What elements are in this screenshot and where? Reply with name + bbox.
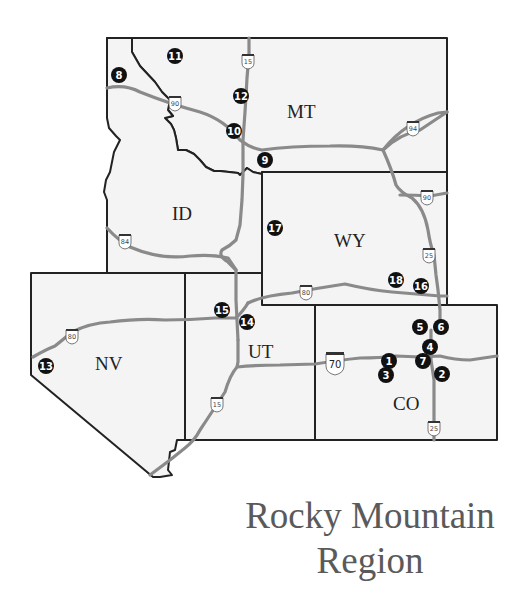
interstate-shield-i80-nv: 80 [66,329,78,344]
svg-text:4: 4 [427,342,434,353]
state-label-co: CO [393,393,419,414]
svg-text:18: 18 [389,275,403,286]
location-marker-6[interactable]: 6 [433,319,449,335]
svg-text:14: 14 [240,317,254,328]
interstate-shield-i70: 70 [326,352,344,375]
svg-text:17: 17 [268,223,282,234]
state-label-id: ID [172,203,192,224]
interstate-shield-i25-wy: 25 [423,248,435,263]
location-marker-13[interactable]: 13 [38,358,54,374]
location-marker-18[interactable]: 18 [388,272,404,288]
location-marker-12[interactable]: 12 [233,88,249,104]
location-marker-14[interactable]: 14 [239,314,255,330]
svg-text:5: 5 [417,322,424,333]
interstate-shield-i25-co: 25 [428,421,440,436]
shield-label: 84 [121,238,129,246]
svg-text:9: 9 [262,155,269,166]
shield-label: 80 [302,289,310,297]
location-marker-7[interactable]: 7 [415,353,431,369]
interstate-shield-i80-wy: 80 [300,285,312,300]
shield-label: 70 [329,359,342,370]
svg-text:16: 16 [414,281,428,292]
svg-text:13: 13 [39,361,53,372]
svg-text:1: 1 [386,356,393,367]
svg-text:3: 3 [383,370,390,381]
location-marker-3[interactable]: 3 [378,367,394,383]
interstate-shield-i84: 84 [119,234,131,249]
shield-label: 25 [430,425,438,433]
location-marker-5[interactable]: 5 [412,319,428,335]
location-marker-17[interactable]: 17 [267,220,283,236]
svg-text:15: 15 [215,305,229,316]
interstate-shield-i94: 94 [407,121,419,136]
location-marker-15[interactable]: 15 [214,302,230,318]
shield-label: 94 [409,125,417,133]
interstate-shield-i90-wy: 90 [421,190,433,205]
interstate-shield-i15-mt: 15 [242,54,254,69]
interstate-shield-i90-mt: 90 [169,96,181,111]
shield-label: 90 [423,194,431,202]
state-label-ut: UT [248,341,274,362]
state-label-nv: NV [95,353,123,374]
shield-label: 90 [171,100,179,108]
shield-label: 15 [244,58,252,66]
state-nevada[interactable] [31,273,185,477]
interstate-shield-i15-ut: 15 [211,397,223,412]
svg-text:2: 2 [439,369,446,380]
state-label-wy: WY [334,230,366,251]
map-title-line1: Rocky Mountain [230,494,510,538]
svg-text:8: 8 [116,70,123,81]
location-marker-8[interactable]: 8 [111,67,127,83]
svg-text:6: 6 [438,322,445,333]
svg-text:11: 11 [168,51,182,62]
map-title-line2: Region [230,539,510,583]
location-marker-10[interactable]: 10 [226,123,242,139]
shield-label: 15 [213,401,221,409]
svg-text:10: 10 [227,126,241,137]
location-marker-11[interactable]: 11 [167,48,183,64]
location-marker-1[interactable]: 1 [381,353,397,369]
shield-label: 25 [425,252,433,260]
state-label-mt: MT [287,101,316,122]
location-marker-9[interactable]: 9 [257,152,273,168]
state-colorado[interactable] [315,305,497,440]
svg-text:7: 7 [420,356,427,367]
location-marker-16[interactable]: 16 [413,278,429,294]
svg-text:12: 12 [234,91,248,102]
shield-label: 80 [68,333,76,341]
location-marker-4[interactable]: 4 [422,339,438,355]
location-marker-2[interactable]: 2 [434,366,450,382]
